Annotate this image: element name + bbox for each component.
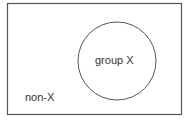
group-x-label: group X [95,54,134,66]
non-x-label: non-X [25,91,55,103]
venn-diagram: group X non-X [0,0,184,120]
